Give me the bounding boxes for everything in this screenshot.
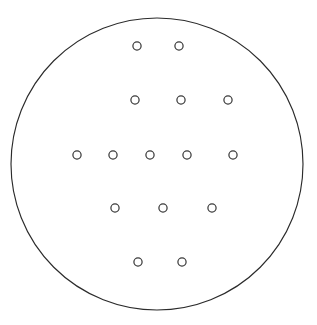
marker-point	[109, 151, 117, 159]
marker-row-1	[133, 42, 183, 50]
marker-row-3	[73, 151, 237, 159]
boundary-circle	[11, 18, 303, 310]
marker-row-5	[134, 258, 186, 266]
marker-row-4	[111, 204, 216, 212]
marker-point	[73, 151, 81, 159]
marker-points-group	[73, 42, 237, 266]
marker-point	[131, 96, 139, 104]
marker-point	[133, 42, 141, 50]
marker-point	[208, 204, 216, 212]
marker-point	[229, 151, 237, 159]
marker-point	[134, 258, 142, 266]
marker-point	[175, 42, 183, 50]
marker-point	[178, 258, 186, 266]
marker-point	[159, 204, 167, 212]
marker-point	[146, 151, 154, 159]
marker-point	[183, 151, 191, 159]
marker-point	[177, 96, 185, 104]
boundary-circle-group	[11, 18, 303, 310]
marker-row-2	[131, 96, 232, 104]
figure-canvas	[0, 0, 317, 325]
marker-point	[224, 96, 232, 104]
marker-point	[111, 204, 119, 212]
diagram-svg	[0, 0, 317, 325]
